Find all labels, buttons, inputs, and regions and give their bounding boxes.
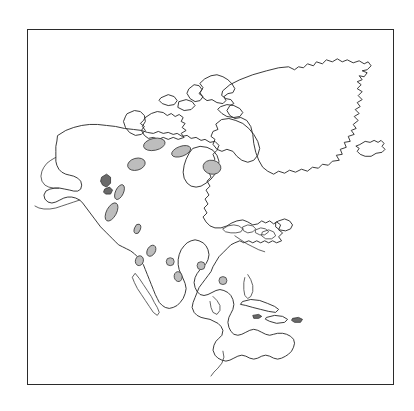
caribbean-isle-shaded bbox=[219, 277, 227, 285]
mainland-north-america-outline bbox=[44, 124, 295, 361]
newfoundland-outline bbox=[276, 219, 293, 231]
alexander-archipelago-dark bbox=[101, 174, 111, 187]
cuba-outline bbox=[241, 299, 279, 312]
map-frame-border bbox=[27, 29, 394, 385]
great-bear-lake-shaded bbox=[142, 136, 166, 152]
bermuda-isle-shaded bbox=[197, 262, 205, 270]
map-figure bbox=[0, 0, 414, 411]
lake-winnipeg-shaded bbox=[170, 143, 192, 159]
puerto-rico-outline bbox=[292, 317, 303, 322]
prince-patrick-island-outline bbox=[159, 95, 177, 106]
jamaica-outline bbox=[253, 314, 262, 318]
haida-gwaii-shaded bbox=[113, 183, 127, 201]
iceland-outline bbox=[356, 140, 385, 156]
great-slave-lake-shaded bbox=[126, 156, 146, 172]
vancouver-island-shaded bbox=[102, 201, 120, 223]
west-coast-isle-small bbox=[133, 223, 142, 234]
yucatan-peninsula bbox=[210, 296, 220, 314]
west-coast-isle-small-2 bbox=[145, 244, 158, 258]
nova-scotia-outline bbox=[262, 230, 276, 239]
socorro-isle-shaded bbox=[166, 258, 174, 266]
florida-peninsula-outline bbox=[244, 275, 253, 299]
gulf-isle-shaded bbox=[173, 271, 183, 282]
hispaniola-outline bbox=[266, 315, 288, 323]
great-lakes-outline bbox=[223, 225, 269, 235]
kodiak-island-dark bbox=[104, 187, 113, 194]
panama-isthmus bbox=[211, 351, 224, 376]
baffin-island-outline bbox=[211, 119, 260, 163]
north-america-outline-map bbox=[28, 30, 393, 384]
melville-island-outline bbox=[178, 100, 195, 111]
greenland-outline bbox=[222, 59, 371, 174]
st-lawrence-river bbox=[235, 236, 265, 252]
